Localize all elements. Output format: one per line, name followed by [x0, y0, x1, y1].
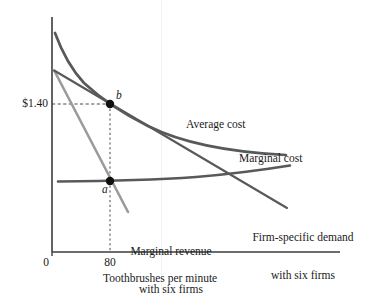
firm-demand-label-line1: Firm-specific demand: [237, 231, 369, 244]
average-cost-label: Average cost: [186, 118, 246, 131]
point-b-marker: [106, 100, 114, 108]
x-tick-label-0: 0: [38, 256, 54, 269]
marginal-revenue-label-line1: Marginal revenue: [112, 245, 230, 258]
marginal-revenue-label-line2: with six firms: [112, 283, 230, 296]
point-b-label: b: [116, 89, 122, 102]
y-axis-price-label: $1.40: [8, 97, 48, 110]
marginal-cost-curve: [58, 166, 290, 182]
marginal-revenue-label: Marginal revenue with six firms: [112, 219, 230, 297]
firm-demand-label: Firm-specific demand with six firms: [237, 205, 369, 297]
firm-demand-label-line2: with six firms: [237, 269, 369, 282]
point-a-label: a: [102, 183, 108, 196]
marginal-cost-label: Marginal cost: [239, 152, 302, 165]
